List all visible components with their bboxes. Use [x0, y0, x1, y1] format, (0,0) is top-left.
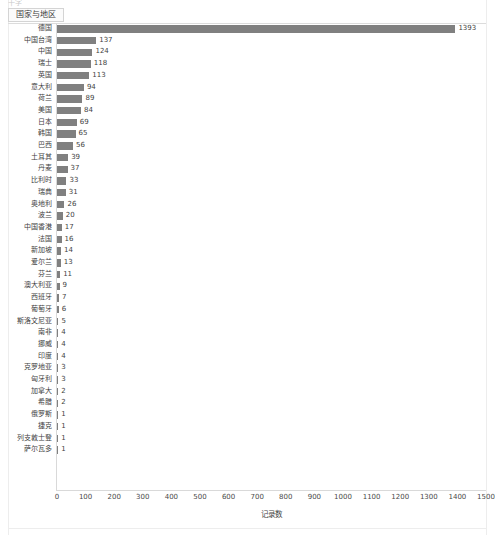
- bar-row[interactable]: 挪威4: [0, 339, 493, 351]
- bar-row[interactable]: 法国16: [0, 234, 493, 246]
- bar-row[interactable]: 韩国65: [0, 128, 493, 140]
- bar[interactable]: [57, 201, 64, 208]
- bar[interactable]: [57, 236, 62, 243]
- bar[interactable]: [57, 247, 61, 254]
- bar-value-label: 4: [61, 339, 65, 351]
- bar[interactable]: [57, 95, 82, 102]
- category-label: 斯洛文尼亚: [0, 316, 52, 328]
- bar-row[interactable]: 瑞士118: [0, 58, 493, 70]
- bar-row[interactable]: 中国124: [0, 46, 493, 58]
- bar-value-label: 2: [61, 397, 65, 409]
- bar[interactable]: [57, 329, 58, 336]
- category-label: 土耳其: [0, 152, 52, 164]
- bar-row[interactable]: 斯洛文尼亚5: [0, 316, 493, 328]
- bar[interactable]: [57, 84, 84, 91]
- category-label: 韩国: [0, 128, 52, 140]
- bar-row[interactable]: 澳大利亚9: [0, 280, 493, 292]
- bar[interactable]: [57, 189, 66, 196]
- bar-value-label: 13: [64, 257, 73, 269]
- category-label: 加拿大: [0, 386, 52, 398]
- bar[interactable]: [57, 154, 68, 161]
- bar-value-label: 69: [80, 117, 89, 129]
- bar-row[interactable]: 比利时33: [0, 175, 493, 187]
- bar-row[interactable]: 希腊2: [0, 397, 493, 409]
- bar-value-label: 84: [84, 105, 93, 117]
- bar[interactable]: [57, 306, 59, 313]
- bar[interactable]: [57, 37, 96, 44]
- category-label: 日本: [0, 117, 52, 129]
- bar-value-label: 6: [62, 304, 66, 316]
- bar-row[interactable]: 日本69: [0, 117, 493, 129]
- bar-row[interactable]: 列支敦士登1: [0, 433, 493, 445]
- category-label: 匈牙利: [0, 374, 52, 386]
- bar[interactable]: [57, 318, 58, 325]
- bar[interactable]: [57, 283, 60, 290]
- bar-row[interactable]: 捷克1: [0, 421, 493, 433]
- x-axis-tick-label: 400: [165, 493, 178, 502]
- bar[interactable]: [57, 72, 89, 79]
- bar[interactable]: [57, 224, 62, 231]
- bar[interactable]: [57, 130, 76, 137]
- bar[interactable]: [57, 107, 81, 114]
- bar-row[interactable]: 丹麦37: [0, 163, 493, 175]
- category-label: 萨尔瓦多: [0, 444, 52, 456]
- x-axis-tick-label: 1100: [363, 493, 381, 502]
- bar-row[interactable]: 南非4: [0, 327, 493, 339]
- bar-row[interactable]: 荷兰89: [0, 93, 493, 105]
- bar[interactable]: [57, 411, 58, 418]
- bar-row[interactable]: 中国台湾137: [0, 35, 493, 47]
- bar[interactable]: [57, 388, 58, 395]
- bar-row[interactable]: 加拿大2: [0, 386, 493, 398]
- bar-row[interactable]: 匈牙利3: [0, 374, 493, 386]
- bar-row[interactable]: 葡萄牙6: [0, 304, 493, 316]
- bar-row[interactable]: 德国1393: [0, 23, 493, 35]
- bar[interactable]: [57, 400, 58, 407]
- bar[interactable]: [57, 177, 66, 184]
- bar-row[interactable]: 中国香港17: [0, 222, 493, 234]
- bar-row[interactable]: 波兰20: [0, 210, 493, 222]
- bar[interactable]: [57, 166, 68, 173]
- x-axis-line: [56, 490, 486, 491]
- bar-row[interactable]: 俄罗斯1: [0, 409, 493, 421]
- bar[interactable]: [57, 49, 92, 56]
- bar-row[interactable]: 美国84: [0, 105, 493, 117]
- bar[interactable]: [57, 341, 58, 348]
- x-axis-tick-label: 100: [79, 493, 92, 502]
- bar-row[interactable]: 爱尔兰13: [0, 257, 493, 269]
- bar[interactable]: [57, 353, 58, 360]
- bar[interactable]: [57, 259, 61, 266]
- bar[interactable]: [57, 423, 58, 430]
- bar[interactable]: [57, 142, 73, 149]
- bar[interactable]: [57, 119, 77, 126]
- bar[interactable]: [57, 364, 58, 371]
- bar-row[interactable]: 萨尔瓦多1: [0, 444, 493, 456]
- x-axis-tick-label: 1300: [420, 493, 438, 502]
- bar-row[interactable]: 芬兰11: [0, 269, 493, 281]
- bar[interactable]: [57, 376, 58, 383]
- category-label: 德国: [0, 23, 52, 35]
- bar-row[interactable]: 英国113: [0, 70, 493, 82]
- bar[interactable]: [57, 271, 60, 278]
- bar[interactable]: [57, 60, 91, 67]
- bar-row[interactable]: 土耳其39: [0, 152, 493, 164]
- x-axis-tick-label: 700: [251, 493, 264, 502]
- bar[interactable]: [57, 446, 58, 453]
- bar-value-label: 118: [94, 58, 107, 70]
- bar-row[interactable]: 巴西56: [0, 140, 493, 152]
- x-axis-tick-label: 200: [108, 493, 121, 502]
- bar-row[interactable]: 新加坡14: [0, 245, 493, 257]
- bar-row[interactable]: 奥地利26: [0, 199, 493, 211]
- bar-row[interactable]: 西班牙7: [0, 292, 493, 304]
- bar[interactable]: [57, 212, 63, 219]
- bar[interactable]: [57, 25, 455, 32]
- bar-row[interactable]: 意大利94: [0, 82, 493, 94]
- bar[interactable]: [57, 435, 58, 442]
- bar[interactable]: [57, 294, 59, 301]
- bar-row[interactable]: 克罗地亚3: [0, 362, 493, 374]
- bar-value-label: 1: [61, 444, 65, 456]
- dimension-pill-country-region[interactable]: 国家与地区: [8, 8, 64, 22]
- bar-value-label: 5: [61, 316, 65, 328]
- bar-row[interactable]: 印度4: [0, 351, 493, 363]
- bar-value-label: 9: [63, 280, 67, 292]
- bar-row[interactable]: 瑞典31: [0, 187, 493, 199]
